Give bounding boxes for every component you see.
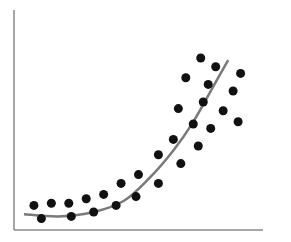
- data-point: [236, 69, 245, 78]
- data-point: [89, 208, 98, 217]
- scatter-chart: [0, 0, 291, 242]
- data-point: [206, 124, 215, 133]
- data-point: [47, 199, 56, 208]
- data-point: [219, 106, 228, 115]
- data-point: [67, 212, 76, 221]
- data-point: [37, 214, 46, 223]
- data-point: [64, 199, 73, 208]
- data-point: [29, 201, 38, 210]
- data-point: [169, 135, 178, 144]
- data-point: [154, 150, 163, 159]
- data-point: [134, 170, 143, 179]
- data-point: [211, 62, 220, 71]
- trend-curve: [24, 60, 228, 216]
- data-point: [82, 194, 91, 203]
- data-points: [29, 54, 245, 224]
- data-point: [112, 201, 121, 210]
- data-point: [204, 80, 213, 89]
- data-point: [199, 98, 208, 107]
- data-point: [132, 192, 141, 201]
- data-point: [117, 179, 126, 188]
- data-point: [229, 87, 238, 96]
- data-point: [196, 54, 205, 63]
- data-point: [154, 179, 163, 188]
- data-point: [189, 120, 198, 129]
- data-point: [194, 142, 203, 151]
- data-point: [176, 159, 185, 168]
- data-point: [234, 117, 243, 126]
- data-point: [174, 104, 183, 113]
- plot-area: [0, 0, 291, 242]
- data-point: [181, 73, 190, 82]
- data-point: [99, 190, 108, 199]
